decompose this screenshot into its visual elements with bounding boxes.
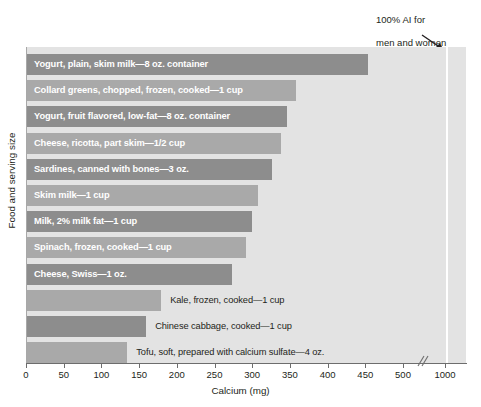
x-axis-tick — [403, 363, 404, 368]
x-axis-tick-label: 150 — [131, 369, 147, 380]
x-axis-tick — [328, 363, 329, 368]
bar — [27, 290, 161, 311]
x-axis-tick — [101, 363, 102, 368]
bar-label: Cheese, Swiss—1 oz. — [34, 264, 127, 285]
bar — [27, 316, 146, 337]
x-axis-tick-label: 450 — [357, 369, 373, 380]
calcium-bar-chart: 100% AI for men and women aged 19–50 yea… — [0, 0, 481, 407]
bar-label: Skim milk—1 cup — [34, 185, 110, 206]
x-axis-tick-label: 400 — [320, 369, 336, 380]
bar-label: Milk, 2% milk fat—1 cup — [34, 211, 137, 232]
y-axis-title: Food and serving size — [6, 106, 17, 256]
x-axis-tick — [365, 363, 366, 368]
x-axis-tick — [139, 363, 140, 368]
x-axis-tick-label: 350 — [282, 369, 298, 380]
x-axis-title: Calcium (mg) — [0, 385, 481, 396]
x-axis-tick — [177, 363, 178, 368]
x-axis-line — [26, 363, 467, 364]
x-axis-tick-label: 1000 — [434, 369, 455, 380]
bar-label: Tofu, soft, prepared with calcium sulfat… — [136, 342, 324, 363]
plot-area: Yogurt, plain, skim milk—8 oz. container… — [26, 47, 466, 363]
bar-label: Cheese, ricotta, part skim—1/2 cup — [34, 133, 185, 154]
x-axis-tick-label: 250 — [207, 369, 223, 380]
bars-container: Yogurt, plain, skim milk—8 oz. container… — [27, 47, 466, 363]
axis-break-icon — [414, 355, 432, 367]
bar — [27, 342, 127, 363]
x-axis-tick-label: 0 — [23, 369, 28, 380]
reference-line-1000mg — [446, 47, 448, 363]
bar-label: Collard greens, chopped, frozen, cooked—… — [34, 80, 243, 101]
bar-label: Kale, frozen, cooked—1 cup — [170, 290, 284, 311]
x-axis-tick — [64, 363, 65, 368]
x-axis-tick-label: 500 — [395, 369, 411, 380]
annotation-line-1: 100% AI for — [376, 14, 480, 26]
bar-label: Yogurt, plain, skim milk—8 oz. container — [34, 54, 208, 75]
x-axis-tick — [445, 363, 446, 368]
x-axis-tick — [26, 363, 27, 368]
x-axis-tick-label: 50 — [58, 369, 69, 380]
bar-label: Yogurt, fruit flavored, low-fat—8 oz. co… — [34, 106, 230, 127]
x-axis-tick-label: 100 — [93, 369, 109, 380]
x-axis-tick-label: 300 — [244, 369, 260, 380]
bar-label: Spinach, frozen, cooked—1 cup — [34, 237, 172, 258]
x-axis-tick — [290, 363, 291, 368]
x-axis-tick-label: 200 — [169, 369, 185, 380]
bar-label: Chinese cabbage, cooked—1 cup — [155, 316, 292, 337]
bar-label: Sardines, canned with bones—3 oz. — [34, 159, 189, 180]
x-axis-tick — [215, 363, 216, 368]
x-axis-tick — [252, 363, 253, 368]
